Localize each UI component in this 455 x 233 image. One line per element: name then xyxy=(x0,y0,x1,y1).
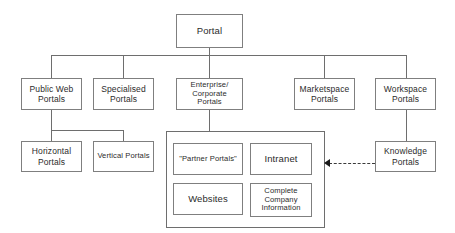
connector-drop-vertical xyxy=(123,130,124,141)
connector-drop-enterprise xyxy=(209,55,210,78)
node-intranet[interactable]: Intranet xyxy=(250,143,312,175)
connector-public-web-drop xyxy=(51,110,52,130)
connector-drop-marketspace xyxy=(324,55,325,78)
connector-level2-bus xyxy=(51,55,407,56)
connector-drop-workspace xyxy=(406,55,407,78)
node-horizontal-portals[interactable]: Horizontal Portals xyxy=(21,141,82,172)
node-websites[interactable]: Websites xyxy=(173,183,243,215)
node-public-web-portals[interactable]: Public Web Portals xyxy=(21,78,82,110)
connector-enterprise-to-group xyxy=(209,110,210,131)
node-specialised-portals[interactable]: Specialised Portals xyxy=(93,78,154,110)
connector-drop-specialised xyxy=(123,55,124,78)
node-vertical-portals[interactable]: Vertical Portals xyxy=(93,141,154,172)
arrow-head-icon xyxy=(324,159,330,167)
node-workspace-portals[interactable]: Workspace Portals xyxy=(375,78,436,110)
node-portal[interactable]: Portal xyxy=(176,14,243,48)
connector-drop-horizontal xyxy=(51,130,52,141)
diagram-canvas: Portal Public Web Portals Specialised Po… xyxy=(0,0,455,233)
node-complete-company-information[interactable]: Complete Company Information xyxy=(250,183,312,217)
node-knowledge-portals[interactable]: Knowledge Portals xyxy=(375,141,436,172)
connector-workspace-to-knowledge xyxy=(406,110,407,141)
node-marketspace-portals[interactable]: Marketspace Portals xyxy=(294,78,355,110)
connector-drop-public-web xyxy=(51,55,52,78)
connector-level3-bus xyxy=(51,130,124,131)
knowledge-to-enterprise-arrow xyxy=(329,163,375,164)
node-partner-portals[interactable]: "Partner Portals" xyxy=(173,143,243,175)
node-enterprise-corporate-portals[interactable]: Enterprise/ Corporate Portals xyxy=(176,78,243,110)
